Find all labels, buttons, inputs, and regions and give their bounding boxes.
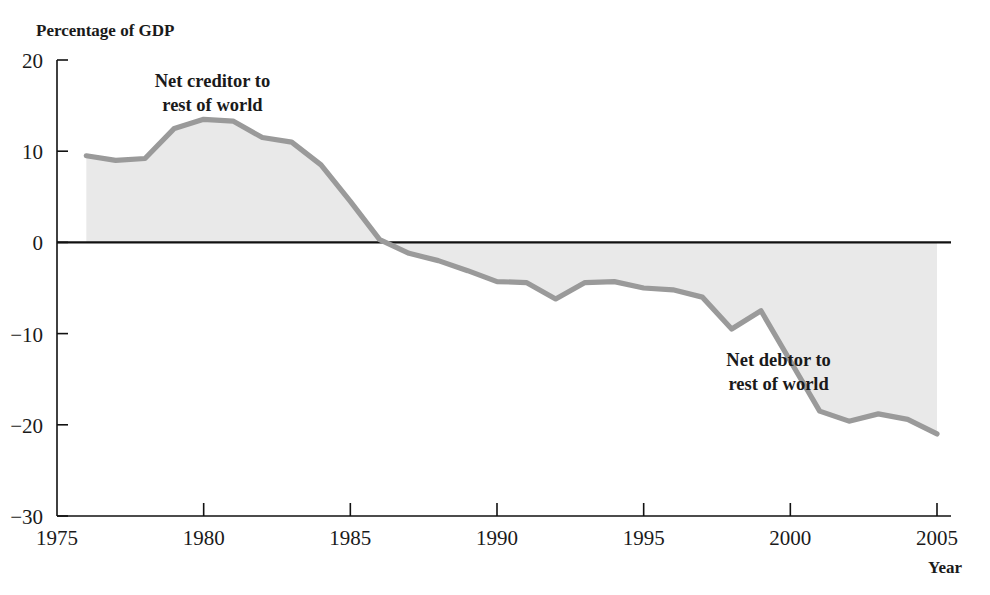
x-tick-label: 1975 [36, 526, 78, 550]
annotation-net-creditor: Net creditor to rest of world [155, 71, 270, 115]
y-tick-label: 0 [33, 231, 44, 255]
annotation-net-creditor-line2: rest of world [162, 95, 263, 115]
annotation-net-debtor-line1: Net debtor to [726, 350, 830, 370]
line-area-chart: 20100−10−20−30 1975198019851990199520002… [0, 0, 990, 595]
chart-container: 20100−10−20−30 1975198019851990199520002… [0, 0, 990, 595]
annotation-net-debtor-line2: rest of world [728, 374, 829, 394]
y-axis-ticks [57, 60, 68, 516]
y-tick-label: 20 [22, 49, 43, 73]
annotation-net-creditor-line1: Net creditor to [155, 71, 270, 91]
y-tick-label: −10 [10, 323, 43, 347]
y-axis-tick-labels: 20100−10−20−30 [10, 49, 43, 529]
y-axis-title: Percentage of GDP [36, 21, 174, 40]
x-axis-title: Year [928, 558, 962, 577]
x-tick-label: 2000 [769, 526, 811, 550]
x-tick-label: 2005 [916, 526, 958, 550]
x-tick-label: 1985 [329, 526, 371, 550]
x-axis-ticks [204, 503, 937, 516]
x-axis-tick-labels: 1975198019851990199520002005 [36, 526, 958, 550]
x-tick-label: 1995 [623, 526, 665, 550]
x-tick-label: 1980 [183, 526, 225, 550]
y-tick-label: 10 [22, 140, 43, 164]
x-tick-label: 1990 [476, 526, 518, 550]
y-tick-label: −20 [10, 414, 43, 438]
